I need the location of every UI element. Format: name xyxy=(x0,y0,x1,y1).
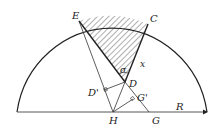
label-C: C xyxy=(150,13,158,24)
label-G-prime: G' xyxy=(137,92,148,103)
label-sigma: σ xyxy=(120,65,127,75)
label-H: H xyxy=(108,115,118,126)
label-E: E xyxy=(71,10,80,21)
label-G: G xyxy=(152,115,160,126)
segment-DH xyxy=(113,82,125,112)
geometry-diagram: E C x σ D D' G' H G R xyxy=(0,0,218,130)
label-x: x xyxy=(140,59,145,69)
label-R: R xyxy=(175,101,184,112)
label-D-prime: D' xyxy=(87,87,99,98)
label-D: D xyxy=(128,78,137,89)
diagram-canvas: E C x σ D D' G' H G R xyxy=(0,0,218,130)
